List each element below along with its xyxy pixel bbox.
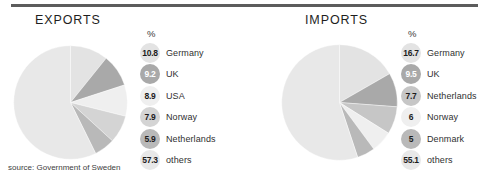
legend-item-label: UK: [427, 69, 440, 79]
header-divider: [11, 4, 478, 7]
legend-value-badge: 57.3: [140, 150, 160, 170]
legend-value-badge: 5: [401, 129, 421, 149]
pie-chart-imports: [281, 44, 398, 161]
legend-header-percent-exports: %: [140, 28, 260, 42]
legend-value-badge: 7.7: [401, 86, 421, 106]
legend-value-badge: 16.7: [401, 43, 421, 63]
legend-item-label: Netherlands: [427, 91, 477, 101]
legend-value-badge: 10.8: [140, 43, 160, 63]
legend-item: 7.9Norway: [140, 107, 260, 129]
legend-item: 5.9Netherlands: [140, 128, 260, 150]
legend-item-label: Norway: [427, 112, 458, 122]
legend-rows-imports: 16.7Germany9.5UK7.7Netherlands6Norway5De…: [401, 42, 486, 171]
legend-value-badge: 6: [401, 107, 421, 127]
pie-chart-exports: [13, 45, 128, 160]
legend-value-badge: 8.9: [140, 86, 160, 106]
legend-value-badge: 7.9: [140, 107, 160, 127]
legend-item: 5Denmark: [401, 128, 486, 150]
legend-item-label: Denmark: [427, 134, 464, 144]
legend-value-badge: 55.1: [401, 150, 421, 170]
legend-item-label: others: [166, 155, 192, 165]
legend-item: 8.9USA: [140, 85, 260, 107]
legend-item: 9.2UK: [140, 64, 260, 86]
legend-item: 16.7Germany: [401, 42, 486, 64]
legend-value-badge: 5.9: [140, 129, 160, 149]
legend-value-badge: 9.5: [401, 64, 421, 84]
legend-value-badge: 9.2: [140, 64, 160, 84]
legend-imports: % 16.7Germany9.5UK7.7Netherlands6Norway5…: [401, 28, 486, 171]
legend-item: 57.3others: [140, 150, 260, 172]
legend-item: 9.5UK: [401, 64, 486, 86]
source-note: source: Government of Sweden: [8, 163, 128, 174]
legend-rows-exports: 10.8Germany9.2UK8.9USA7.9Norway5.9Nether…: [140, 42, 260, 171]
panel-title-imports: IMPORTS: [305, 13, 368, 27]
legend-item-label: USA: [166, 91, 185, 101]
legend-item-label: Netherlands: [166, 134, 216, 144]
panel-title-exports: EXPORTS: [35, 13, 101, 27]
legend-item: 55.1others: [401, 150, 486, 172]
legend-header-percent-imports: %: [401, 28, 486, 42]
legend-item: 10.8Germany: [140, 42, 260, 64]
legend-item: 6Norway: [401, 107, 486, 129]
legend-item-label: Germany: [427, 48, 465, 58]
legend-item-label: others: [427, 155, 453, 165]
legend-item-label: Norway: [166, 112, 197, 122]
legend-item-label: UK: [166, 69, 179, 79]
legend-item-label: Germany: [166, 48, 204, 58]
legend-exports: % 10.8Germany9.2UK8.9USA7.9Norway5.9Neth…: [140, 28, 260, 171]
legend-item: 7.7Netherlands: [401, 85, 486, 107]
infographic-root: EXPORTS IMPORTS % 10.8Germany9.2UK8.9USA…: [0, 0, 486, 187]
